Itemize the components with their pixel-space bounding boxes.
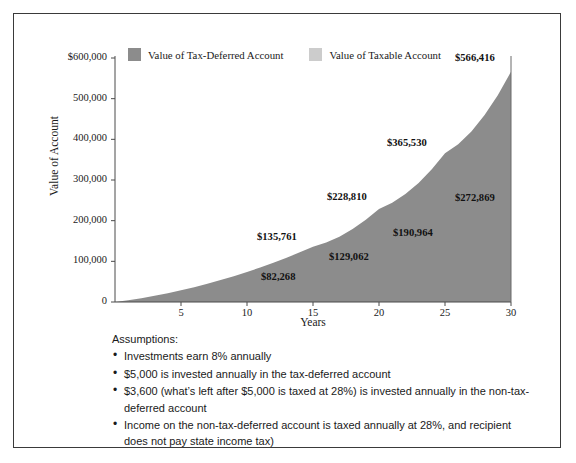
data-point-label: $135,761 xyxy=(257,231,297,242)
y-tick-label: $600,000 xyxy=(10,51,107,62)
bullet-icon: • xyxy=(113,382,117,398)
data-point-label: $129,062 xyxy=(329,251,369,262)
y-tick-label: 100,000 xyxy=(10,254,107,265)
assumption-item: •$5,000 is invested annually in the tax-… xyxy=(112,366,532,382)
x-tick-label: 5 xyxy=(161,307,201,318)
bullet-icon: • xyxy=(113,347,117,363)
assumption-text: Income on the non-tax-deferred account i… xyxy=(124,419,511,447)
data-point-label: $365,530 xyxy=(387,137,427,148)
x-tick-label: 10 xyxy=(227,307,267,318)
x-tick-label: 15 xyxy=(293,307,333,318)
y-tick-label: 200,000 xyxy=(10,214,107,225)
data-point-label: $82,268 xyxy=(261,271,295,282)
y-tick-label: 400,000 xyxy=(10,132,107,143)
x-tick-label: 20 xyxy=(359,307,399,318)
assumption-text: $3,600 (what’s left after $5,000 is taxe… xyxy=(124,385,529,413)
assumption-item: •Investments earn 8% annually xyxy=(112,348,532,364)
bullet-icon: • xyxy=(113,416,117,432)
x-tick-label: 30 xyxy=(491,307,531,318)
data-point-label: $190,964 xyxy=(393,227,433,238)
assumptions-block: Assumptions: •Investments earn 8% annual… xyxy=(112,331,532,450)
assumptions-title: Assumptions: xyxy=(112,331,532,347)
data-point-label: $228,810 xyxy=(327,191,367,202)
assumption-item: •Income on the non-tax-deferred account … xyxy=(112,417,532,450)
y-tick-label: 0 xyxy=(10,295,107,306)
y-tick-label: 300,000 xyxy=(10,173,107,184)
data-point-label: $566,416 xyxy=(455,52,495,63)
data-point-label: $272,869 xyxy=(455,192,495,203)
y-axis-title: Value of Account xyxy=(48,86,60,226)
x-tick-label: 25 xyxy=(425,307,465,318)
area-tax-deferred-group xyxy=(115,72,511,302)
assumption-text: Investments earn 8% annually xyxy=(124,350,271,362)
bullet-icon: • xyxy=(113,365,117,381)
chart-page: Value of Tax-Deferred Account Value of T… xyxy=(0,0,576,463)
assumption-text: $5,000 is invested annually in the tax-d… xyxy=(124,368,391,380)
y-tick-label: 500,000 xyxy=(10,92,107,103)
assumption-item: •$3,600 (what’s left after $5,000 is tax… xyxy=(112,383,532,416)
